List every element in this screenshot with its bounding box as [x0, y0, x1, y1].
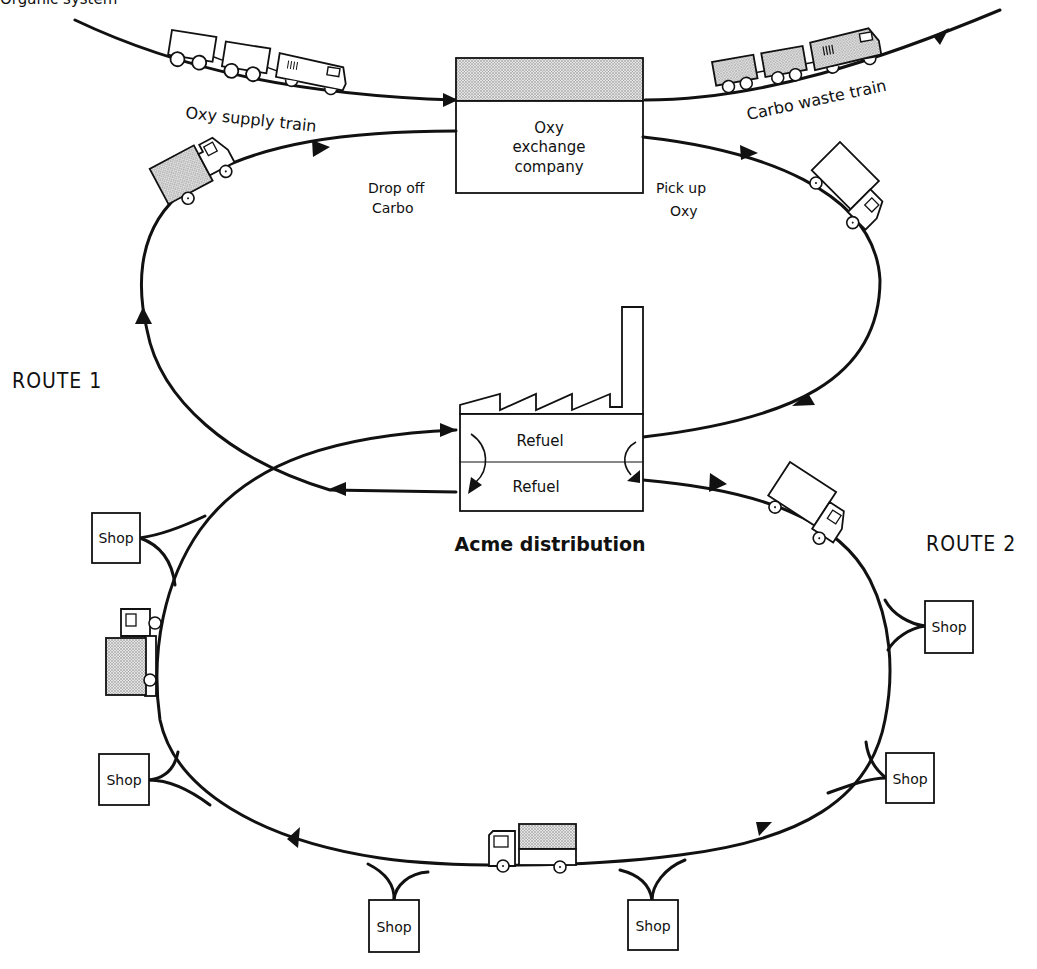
- shop-left-lower: Shop: [99, 754, 149, 805]
- drop-off-label: Drop off: [368, 180, 425, 196]
- carbo-waste-train-label: Carbo waste train: [745, 76, 888, 124]
- shop-left-upper: Shop: [92, 513, 140, 563]
- factory-roof: [460, 307, 643, 414]
- shop-bottom-left: Shop: [369, 900, 419, 952]
- refuel-upper-label: Refuel: [516, 432, 563, 450]
- svg-text:exchange: exchange: [513, 138, 586, 156]
- svg-text:Shop: Shop: [376, 919, 411, 935]
- arrow-left-icon: [287, 827, 300, 848]
- truck-route1-oxy: [802, 142, 897, 237]
- acme-distribution-label: Acme distribution: [455, 533, 646, 555]
- route-1-label: ROUTE 1: [12, 369, 102, 393]
- truck-route2-empty: [761, 462, 858, 551]
- distribution-network-diagram: Organic system Oxy supply train: [0, 0, 1037, 969]
- truck-route2-bottom: [489, 824, 576, 873]
- route-2-label: ROUTE 2: [926, 532, 1016, 556]
- pick-up-label: Pick up: [656, 180, 706, 196]
- oxy-supply-train-label: Oxy supply train: [185, 103, 318, 136]
- arrow-down-left-icon: [756, 822, 772, 836]
- exchange-rail-platform: [456, 58, 643, 101]
- svg-text:Shop: Shop: [892, 771, 927, 787]
- refuel-lower-label: Refuel: [512, 478, 559, 496]
- arrow-left-icon: [329, 482, 346, 496]
- pick-up-label-2: Oxy: [670, 203, 698, 219]
- svg-text:Shop: Shop: [106, 772, 141, 788]
- svg-text:Oxy: Oxy: [534, 119, 564, 137]
- shop-right-upper: Shop: [925, 601, 973, 653]
- oxy-supply-train: [166, 30, 350, 97]
- svg-text:Shop: Shop: [635, 918, 670, 934]
- top-caption-partial: Organic system: [0, 0, 117, 8]
- acme-distribution-building: Refuel Refuel: [460, 307, 643, 511]
- arrow-right-icon: [312, 140, 330, 157]
- oxy-exchange-company: Oxy exchange company: [456, 58, 643, 193]
- truck-route2-left: [106, 609, 161, 696]
- arrow-right-icon: [933, 28, 949, 45]
- svg-text:company: company: [514, 158, 583, 176]
- svg-text:Shop: Shop: [931, 619, 966, 635]
- shop-right-lower: Shop: [886, 753, 934, 803]
- svg-text:Shop: Shop: [98, 530, 133, 546]
- drop-off-label-2: Carbo: [372, 200, 414, 216]
- truck-route1-carbo: [150, 132, 242, 213]
- arrow-up-icon: [135, 307, 152, 324]
- shop-bottom-right: Shop: [628, 900, 678, 950]
- arrow-right-icon: [440, 423, 457, 437]
